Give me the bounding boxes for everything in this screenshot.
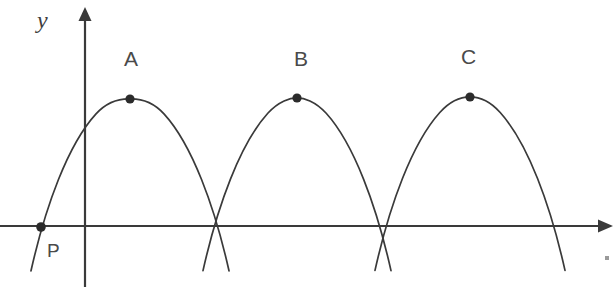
vertex-dot-b <box>292 93 301 102</box>
point-dot-p <box>36 222 46 232</box>
vertex-label-b: B <box>294 48 308 69</box>
y-axis-label: y <box>37 8 48 32</box>
figure-canvas <box>0 0 615 287</box>
parabola-arcs-figure: y A B C P <box>0 0 615 287</box>
x-axis-arrowhead <box>598 220 613 233</box>
parabola-arc-a <box>31 99 229 271</box>
stray-mark <box>605 256 609 260</box>
parabola-arc-c <box>375 97 565 271</box>
vertex-label-a: A <box>124 48 138 69</box>
vertex-label-c: C <box>461 46 476 67</box>
y-axis <box>79 7 92 287</box>
vertex-dot-c <box>465 92 474 101</box>
point-label-p: P <box>47 241 60 260</box>
parabola-arc-b <box>203 98 391 271</box>
vertex-dot-a <box>125 94 134 103</box>
y-axis-arrowhead <box>79 7 92 21</box>
x-axis <box>0 220 613 233</box>
